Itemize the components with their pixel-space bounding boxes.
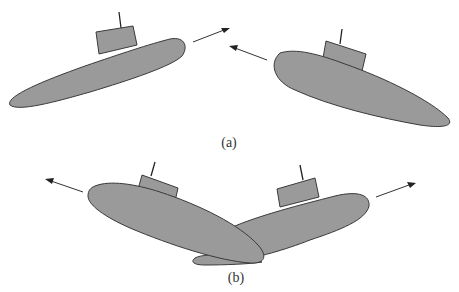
hull (10, 39, 186, 108)
periscope-mast (151, 162, 155, 176)
panel-a-left-arrow (193, 28, 230, 42)
panel-b-label: (b) (228, 270, 245, 286)
panel-a: (a) (10, 12, 450, 151)
panel-b-right-arrow (376, 182, 416, 197)
panel-a-right-submarine (274, 29, 450, 127)
panel-a-right-arrow (229, 45, 267, 60)
submarine-diagram: (a) (b) (0, 0, 459, 292)
periscope-mast (300, 165, 303, 180)
arrow-shaft (51, 181, 83, 192)
arrow-shaft (193, 30, 224, 42)
periscope-mast (119, 12, 121, 28)
panel-a-label: (a) (221, 135, 237, 151)
conning-tower (96, 26, 137, 54)
panel-a-left-submarine (10, 12, 186, 107)
panel-b: (b) (45, 162, 416, 286)
arrow-shaft (376, 185, 409, 197)
periscope-mast (340, 29, 342, 44)
arrow-head-icon (229, 45, 238, 51)
panel-b-left-submarine (88, 162, 264, 263)
panel-b-left-arrow (45, 178, 83, 192)
arrow-head-icon (45, 178, 54, 184)
arrow-shaft (235, 48, 267, 60)
